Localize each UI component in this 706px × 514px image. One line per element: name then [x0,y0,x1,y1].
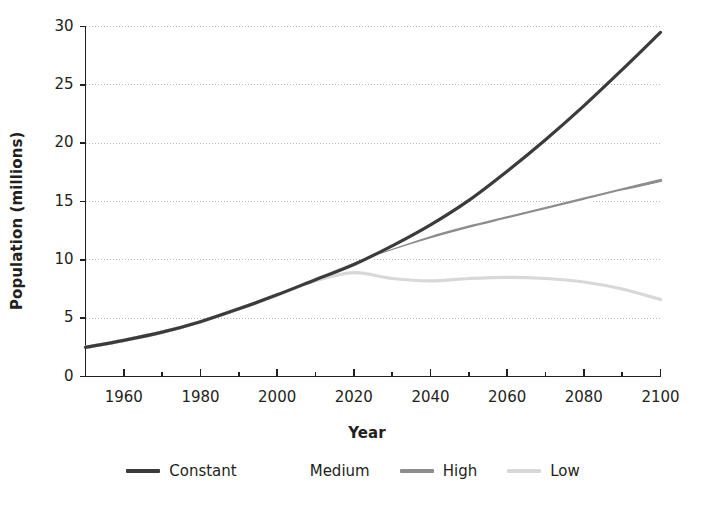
chart-legend: ConstantMediumHighLow [0,462,706,480]
y-tick-label: 30 [20,17,74,35]
x-tick-label: 1980 [171,388,231,406]
x-tick-label: 2020 [324,388,384,406]
legend-swatch-icon [507,469,541,473]
legend-label: Constant [169,462,236,480]
series-line-high [86,181,661,348]
x-tick-label: 1960 [94,388,154,406]
population-projection-chart: Population (millions) 051015202530 19601… [0,0,706,514]
legend-swatch-icon [267,469,301,473]
y-tick-label: 5 [20,308,74,326]
y-tick-label: 25 [20,75,74,93]
series-line-medium [86,184,661,347]
legend-swatch-icon [400,469,434,473]
legend-label: Medium [310,462,370,480]
y-tick-label: 15 [20,192,74,210]
legend-label: Low [550,462,580,480]
y-tick-label: 20 [20,133,74,151]
x-tick-label: 2080 [554,388,614,406]
x-tick-label: 2040 [401,388,461,406]
y-tick-label: 10 [20,250,74,268]
y-tick-label: 0 [20,367,74,385]
x-axis-title-container: Year [0,424,706,442]
x-tick-label: 2060 [477,388,537,406]
legend-item[interactable]: High [400,462,477,480]
x-axis-title: Year [348,424,386,442]
legend-item[interactable]: Constant [126,462,236,480]
series-line-low [86,273,661,348]
series-line-constant [86,32,661,347]
x-tick-label: 2100 [631,388,691,406]
legend-item[interactable]: Low [507,462,580,480]
x-tick-label: 2000 [247,388,307,406]
legend-item[interactable]: Medium [267,462,370,480]
legend-swatch-icon [126,469,160,473]
legend-label: High [443,462,477,480]
